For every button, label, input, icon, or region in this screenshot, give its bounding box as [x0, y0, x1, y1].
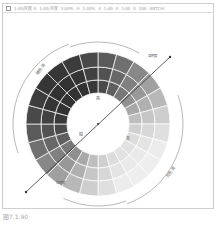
label-top: 亮 [96, 95, 100, 101]
label-dark-bracket: 暗色调 [34, 62, 46, 75]
label-light-bracket: 亮色调 [164, 165, 176, 178]
axis-end-dot [169, 56, 171, 58]
figure-caption: 图7.1.90 [3, 212, 28, 221]
axis-end-dot [25, 191, 27, 193]
label-right: 灰 [126, 135, 130, 141]
label-left: 暗 [79, 131, 83, 137]
label-high-value: 高明度 [148, 53, 158, 58]
label-low-value: 低明度 [56, 180, 66, 185]
tone-wheel: 亮 暗 灰 暗色调 高明度 低明度 亮色调 [0, 0, 220, 225]
axis-center-dot [97, 123, 99, 125]
